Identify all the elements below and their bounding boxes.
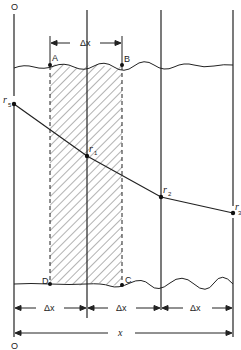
label-d: D [42,276,49,286]
node-r2 [159,195,163,199]
profile-polyline [14,104,233,213]
r1-symbol: r [89,143,93,154]
r3-subscript: 3 [238,210,241,216]
nodes [12,63,235,287]
node-r5 [12,102,16,106]
bottom-dx-label-2: Δx [116,303,127,313]
origin-bottom-label: O [11,341,18,350]
total-x-label: x [117,327,123,338]
r2-subscript: 2 [168,191,172,197]
r5-symbol: r [3,94,7,105]
label-a: A [52,53,58,63]
hatched-region [50,64,122,286]
bottom-dx-label-1: Δx [44,303,55,313]
total-x-dimension [15,331,232,336]
origin-top-label: O [11,2,18,12]
r5-subscript: 5 [8,102,12,108]
point-d [48,282,52,286]
label-b: B [124,54,130,64]
node-r1 [85,154,89,158]
label-c: C [125,275,132,285]
top-dx-label: Δx [80,38,91,48]
diagram-canvas: Δx r 5 r 1 r 2 r 3 A B D C O O [0,0,241,350]
r2-symbol: r [163,184,167,195]
point-c [120,283,124,287]
bottom-dx-label-3: Δx [190,303,201,313]
point-a [48,63,52,67]
